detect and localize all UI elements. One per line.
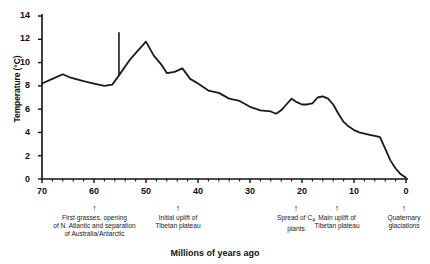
data-line <box>42 42 406 178</box>
data-line-group <box>42 32 406 178</box>
chart-figure: Temperature (°C) 14 12 10 8 6 4 2 0 70 6… <box>0 0 430 264</box>
axes <box>38 14 408 183</box>
plot-area <box>0 0 430 264</box>
